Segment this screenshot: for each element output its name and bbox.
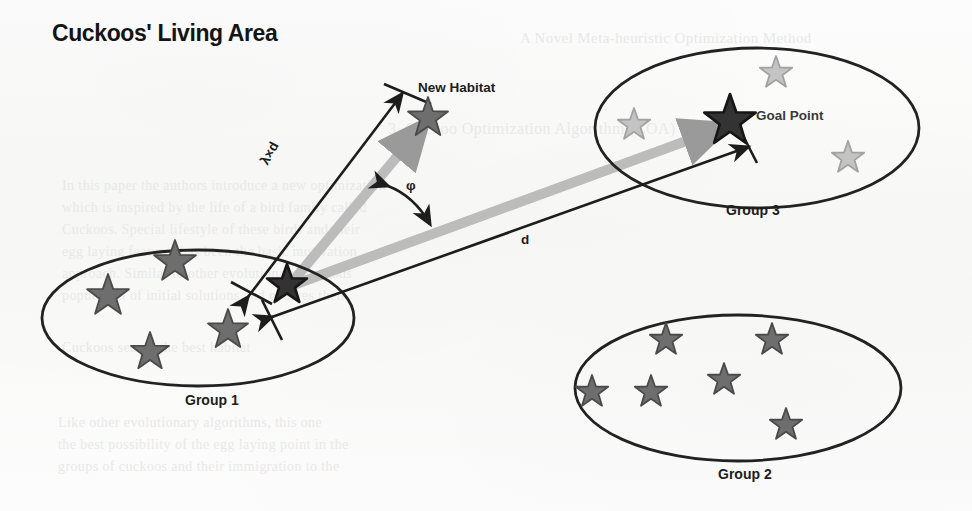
page-title: Cuckoos' Living Area [52,20,277,47]
distance-label: d [521,232,529,247]
cuckoo-star [708,363,740,394]
new-habitat-label: New Habitat [418,80,495,95]
cuckoo-star [618,108,650,139]
radius-dimension-line [248,94,402,297]
radius-tick-bottom [231,282,272,304]
cuckoo-star [635,375,667,406]
group-ellipse-2 [575,315,901,461]
goal-point-label: Goal Point [756,108,824,123]
cuckoo-star [756,323,788,354]
group-ellipse-1 [42,250,354,386]
star-layer [87,56,864,439]
cuckoo-star [576,375,608,406]
cuckoo-star [650,323,682,354]
distance-tick-left [262,300,282,340]
group-3-label: Group 3 [726,202,780,218]
cuckoo-star [131,332,169,368]
phi-angle-label: φ [406,178,416,193]
group-2-label: Group 2 [718,466,772,482]
cuckoo-star [770,408,802,439]
group-1-label: Group 1 [185,392,239,408]
cuckoo-star [154,240,196,280]
cuckoo-star [208,309,248,347]
cuckoo-star [87,274,129,314]
diagram-svg [0,0,972,511]
figure-canvas: A Novel Meta-heuristic Optimization Meth… [0,0,972,511]
cuckoo-star [760,56,792,87]
cuckoo-star [832,141,864,172]
migration-vector-group [288,122,727,287]
